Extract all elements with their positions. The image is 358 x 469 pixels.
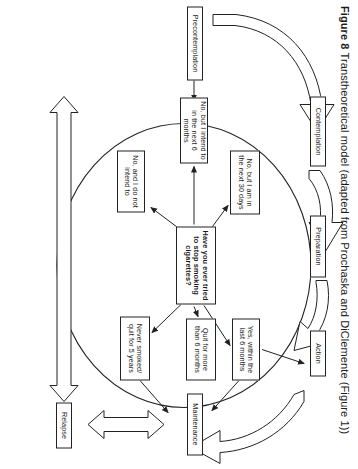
figure-page: Precontemplation Contemplation Preparati…	[0, 0, 358, 469]
answer-no-next-30-days[interactable]: No, but I am in the next 30 days	[230, 150, 260, 214]
answer-quit-more-than-6-months[interactable]: Quit for more than 6 months	[186, 318, 216, 380]
stage-action[interactable]: Action	[310, 330, 326, 376]
central-question-box[interactable]: Have you ever tried to stop smoking ciga…	[176, 226, 216, 304]
answer-no-intend-6-months[interactable]: No, but I intend to in the next 6 months	[180, 97, 208, 163]
stage-preparation[interactable]: Preparation	[310, 215, 326, 277]
figure-number: Figure 8	[339, 6, 351, 50]
arrow-action-to-maintenance	[191, 390, 304, 463]
stage-relapse[interactable]: Relapse	[56, 402, 72, 448]
arrow-maintenance-relapse	[88, 410, 164, 438]
stage-contemplation[interactable]: Contemplation	[310, 96, 326, 166]
figure-caption: Figure 8 Transtheoretical model (adapted…	[332, 0, 356, 469]
stage-precontemplation[interactable]: Precontemplation	[187, 6, 203, 80]
diagram-stage: Precontemplation Contemplation Preparati…	[14, 0, 344, 469]
arrow-relapse-precontemplation	[50, 96, 78, 401]
stage-maintenance[interactable]: Maintenance	[187, 393, 203, 455]
answer-never-smoked-5-years[interactable]: Never smoked/ quit for 5 years	[120, 316, 150, 380]
figure-caption-text: Transtheoretical model (adapted from Pro…	[339, 53, 351, 435]
answer-yes-last-6-months[interactable]: Yes, within the last 6 months	[232, 318, 260, 380]
answer-no-not-intend[interactable]: No, and I do not intend to	[117, 150, 145, 212]
